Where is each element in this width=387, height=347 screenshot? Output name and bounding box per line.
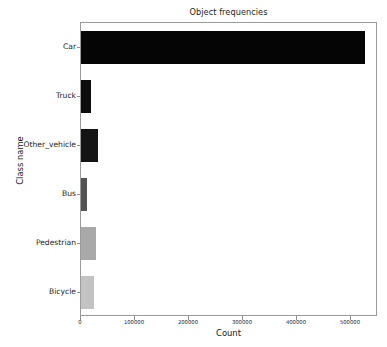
x-tick-label: 100000 — [124, 319, 144, 326]
y-tick-label-truck: Truck — [56, 91, 76, 100]
x-axis-title: Count — [80, 328, 377, 339]
y-tick-mark — [77, 243, 81, 244]
y-tick-label-pedestrian: Pedestrian — [36, 238, 76, 247]
y-tick-mark — [77, 145, 81, 146]
bar-car — [81, 31, 365, 63]
chart-figure: Object frequencies CarTruckOther_vehicle… — [0, 0, 387, 347]
x-tick-label: 400000 — [286, 319, 306, 326]
y-tick-mark — [77, 96, 81, 97]
bar-truck — [81, 80, 91, 112]
y-tick-mark — [77, 194, 81, 195]
y-tick-label-car: Car — [63, 42, 76, 51]
y-tick-label-other_vehicle: Other_vehicle — [24, 140, 76, 149]
y-tick-mark — [77, 47, 81, 48]
bar-bicycle — [81, 276, 94, 308]
x-tick-label: 300000 — [232, 319, 252, 326]
y-axis-title: Class name — [15, 106, 26, 216]
chart-title: Object frequencies — [80, 7, 377, 18]
bar-other_vehicle — [81, 129, 98, 161]
bar-pedestrian — [81, 227, 96, 259]
bar-bus — [81, 178, 87, 210]
x-tick-label: 200000 — [178, 319, 198, 326]
plot-area — [80, 22, 377, 316]
x-tick-label: 0 — [78, 319, 81, 326]
x-tick-label: 500000 — [340, 319, 360, 326]
y-tick-label-bicycle: Bicycle — [49, 287, 76, 296]
y-tick-mark — [77, 292, 81, 293]
y-tick-label-bus: Bus — [62, 189, 76, 198]
